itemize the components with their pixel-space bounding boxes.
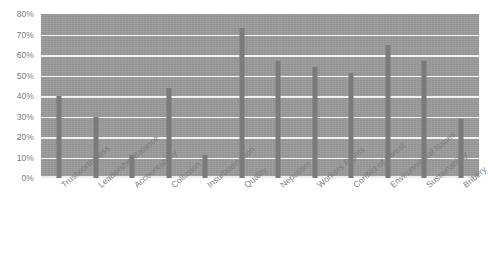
bar-slot (187, 14, 224, 178)
y-axis-tick: 30% (17, 112, 34, 122)
x-axis-label: Conflict of Intrest (351, 182, 357, 190)
y-axis-tick: 70% (17, 30, 34, 40)
y-axis: 80% 70% 60% 50% 40% 30% 20% 10% 0% (0, 14, 38, 178)
y-axis-tick: 80% (17, 9, 34, 19)
chart-title (0, 0, 485, 3)
x-axis-label: Environmental Issues (388, 182, 394, 190)
bar-slot (297, 14, 334, 178)
x-axis-label: Trustworthiness (59, 182, 65, 190)
x-axis-label: Workers Rights (315, 182, 321, 190)
x-axis-label: Insurbodination (205, 182, 211, 190)
bar[interactable] (93, 117, 98, 179)
bar[interactable] (57, 96, 62, 178)
x-axis-label: Sustainability (424, 182, 430, 190)
y-axis-tick: 60% (17, 50, 34, 60)
x-axis: TrustworthinessLeadership BalanceAccount… (41, 180, 479, 261)
x-axis-label: Accountability (132, 182, 138, 190)
y-axis-tick: 20% (17, 132, 34, 142)
x-axis-label: Quality (242, 182, 248, 190)
bar[interactable] (276, 61, 281, 178)
x-axis-label: Nepotism (278, 182, 284, 190)
bar[interactable] (312, 67, 317, 178)
bar-slot (260, 14, 297, 178)
bar[interactable] (203, 155, 208, 178)
y-axis-tick: 0% (22, 173, 35, 183)
bar-slot (41, 14, 78, 178)
y-axis-tick: 40% (17, 91, 34, 101)
x-axis-label: Bribery (461, 182, 467, 190)
x-axis-label: Collusion (169, 182, 175, 190)
y-axis-tick: 50% (17, 71, 34, 81)
y-axis-tick: 10% (17, 153, 34, 163)
x-axis-label: Leadership Balance (96, 182, 102, 190)
